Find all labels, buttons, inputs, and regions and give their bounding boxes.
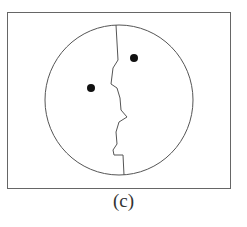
figure-caption: (c) [0, 190, 247, 212]
figure-frame [8, 13, 231, 189]
eye-dot-left [87, 84, 95, 92]
face-circle [45, 25, 193, 175]
eye-dot-right [130, 54, 138, 62]
profile-line [111, 25, 127, 175]
